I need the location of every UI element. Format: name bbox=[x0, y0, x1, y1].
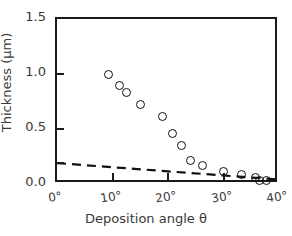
x-tick-label: 40° bbox=[264, 189, 290, 205]
y-axis-title: Thickness (μm) bbox=[0, 0, 16, 165]
y-tick-label: 1.5 bbox=[8, 10, 46, 23]
x-tick-mark bbox=[112, 173, 114, 180]
data-point bbox=[198, 161, 207, 170]
y-tick-mark-minor bbox=[57, 162, 64, 164]
x-tick-label: 20° bbox=[153, 189, 179, 205]
data-point bbox=[237, 170, 246, 179]
y-tick-label: 0.0 bbox=[8, 175, 46, 188]
data-point bbox=[115, 81, 124, 90]
y-tick-mark bbox=[57, 73, 64, 75]
chart-figure: Thickness (μm) Deposition angle θ 0.00.5… bbox=[0, 0, 292, 236]
data-point bbox=[104, 70, 113, 79]
x-axis-title: Deposition angle θ bbox=[0, 212, 292, 226]
y-tick-label: 1.0 bbox=[8, 65, 46, 78]
plot-frame bbox=[55, 17, 277, 182]
dashed-reference-line bbox=[57, 19, 279, 184]
x-tick-label: 10° bbox=[98, 189, 124, 205]
plot-area bbox=[57, 19, 275, 180]
y-tick-mark bbox=[57, 128, 64, 130]
x-tick-label: 30° bbox=[209, 189, 235, 205]
y-tick-label: 0.5 bbox=[8, 120, 46, 133]
x-tick-label: 0° bbox=[42, 189, 68, 205]
data-point bbox=[262, 176, 271, 185]
x-tick-mark bbox=[167, 173, 169, 180]
data-point bbox=[136, 100, 145, 109]
